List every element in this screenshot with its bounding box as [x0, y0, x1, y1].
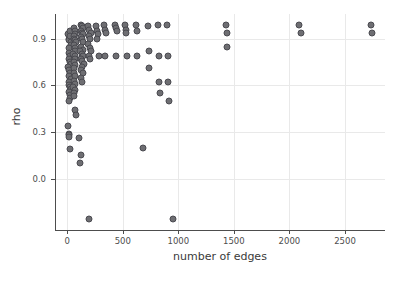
data-point: [133, 52, 140, 59]
data-point: [65, 122, 72, 129]
data-point: [368, 29, 375, 36]
data-point: [155, 21, 162, 28]
data-point: [296, 21, 303, 28]
gridline-vertical: [234, 14, 235, 230]
x-tick-mark: [345, 230, 346, 234]
scatter-plot-figure: number of edges rho 05001000150020002500…: [0, 0, 397, 281]
data-point: [87, 56, 94, 63]
data-point: [72, 112, 79, 119]
data-point: [66, 133, 73, 140]
data-point: [164, 21, 171, 28]
data-point: [223, 43, 230, 50]
data-point: [101, 52, 108, 59]
data-point: [102, 29, 109, 36]
x-tick-mark: [67, 230, 68, 234]
gridline-horizontal: [55, 85, 385, 86]
x-axis-label: number of edges: [55, 250, 385, 263]
gridline-horizontal: [55, 179, 385, 180]
gridline-vertical: [178, 14, 179, 230]
y-tick-label: 0.6: [0, 80, 46, 90]
gridline-horizontal: [55, 132, 385, 133]
x-tick-label: 1000: [168, 236, 190, 246]
data-point: [164, 79, 171, 86]
y-tick-mark: [51, 39, 55, 40]
y-tick-mark: [51, 132, 55, 133]
y-axis-label: rho: [10, 87, 23, 147]
y-axis-line: [55, 14, 56, 230]
data-point: [112, 52, 119, 59]
data-point: [77, 152, 84, 159]
x-tick-label: 2500: [334, 236, 356, 246]
data-point: [66, 146, 73, 153]
gridline-horizontal: [55, 39, 385, 40]
data-point: [114, 28, 121, 35]
data-point: [123, 52, 130, 59]
data-point: [70, 93, 77, 100]
y-tick-mark: [51, 85, 55, 86]
plot-area: [55, 14, 385, 230]
x-axis-line: [55, 230, 385, 231]
x-tick-mark: [178, 230, 179, 234]
data-point: [76, 135, 83, 142]
data-point: [145, 65, 152, 72]
data-point: [79, 79, 86, 86]
data-point: [86, 216, 93, 223]
data-point: [224, 29, 231, 36]
data-point: [223, 21, 230, 28]
data-point: [93, 35, 100, 42]
x-tick-mark: [123, 230, 124, 234]
data-point: [139, 144, 146, 151]
y-tick-label: 0.0: [0, 174, 46, 184]
data-point: [165, 98, 172, 105]
data-point: [77, 160, 84, 167]
x-tick-label: 500: [115, 236, 131, 246]
x-tick-label: 2000: [279, 236, 301, 246]
data-point: [145, 23, 152, 30]
x-tick-label: 1500: [223, 236, 245, 246]
gridline-vertical: [345, 14, 346, 230]
gridline-vertical: [123, 14, 124, 230]
data-point: [297, 29, 304, 36]
x-tick-mark: [234, 230, 235, 234]
x-tick-label: 0: [65, 236, 70, 246]
data-point: [156, 79, 163, 86]
y-tick-label: 0.3: [0, 127, 46, 137]
y-tick-mark: [51, 179, 55, 180]
data-point: [367, 21, 374, 28]
data-point: [156, 52, 163, 59]
x-tick-mark: [289, 230, 290, 234]
data-point: [122, 29, 129, 36]
y-tick-label: 0.9: [0, 34, 46, 44]
data-point: [165, 52, 172, 59]
data-point: [146, 48, 153, 55]
data-point: [134, 28, 141, 35]
gridline-vertical: [289, 14, 290, 230]
data-point: [157, 90, 164, 97]
data-point: [169, 216, 176, 223]
